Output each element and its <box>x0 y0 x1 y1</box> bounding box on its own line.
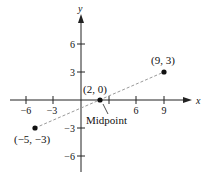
midpoint-annotation: Midpoint <box>86 114 127 126</box>
x-tick-label: 6 <box>134 105 139 116</box>
y-axis-label: y <box>77 3 83 14</box>
point-midpoint <box>97 97 102 102</box>
annotation-leader-line <box>103 104 108 114</box>
point-midpoint-label: (2, 0) <box>83 83 107 96</box>
point-b <box>161 69 166 74</box>
point-a <box>32 125 37 130</box>
x-tick-label: −6 <box>21 105 32 116</box>
point-b-label: (9, 3) <box>151 54 175 67</box>
y-axis-arrow-icon <box>78 14 84 23</box>
x-axis-arrow-icon <box>183 97 192 103</box>
y-tick-label: 3 <box>70 67 75 78</box>
x-axis-label: x <box>195 95 201 106</box>
y-tick-label: −3 <box>64 123 75 134</box>
y-tick-label: −6 <box>64 151 75 162</box>
y-axis: y 6 3 −3 −6 <box>64 3 85 172</box>
x-tick-label: 9 <box>162 105 167 116</box>
x-axis: x −6 −3 6 9 <box>10 95 201 116</box>
y-tick-label: 6 <box>70 39 75 50</box>
coordinate-plane: x −6 −3 6 9 y 6 3 −3 −6 (−5, −3) (2, 0) … <box>0 0 209 178</box>
x-tick-label: −3 <box>47 105 58 116</box>
point-a-label: (−5, −3) <box>14 133 51 146</box>
